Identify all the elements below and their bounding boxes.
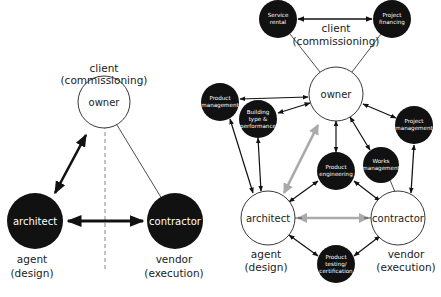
- left-client-label: client: [90, 62, 119, 74]
- building-type-label-2: type &: [249, 116, 268, 123]
- left-commissioning-label: (commissioning): [61, 74, 148, 86]
- left-diagram: client (commissioning) owner architect c…: [7, 62, 204, 279]
- product-testing-label-2: testing/: [325, 261, 346, 268]
- product-engineering-label-1: Product: [325, 164, 347, 170]
- building-architect-arrow: [258, 138, 261, 191]
- product-management-label-2: management: [201, 102, 239, 109]
- product-management-label-1: Product: [209, 95, 231, 101]
- building-owner-arrow: [278, 103, 310, 113]
- product-testing-label-1: Product: [325, 254, 347, 260]
- product-engineering-label-2: engineering: [319, 171, 353, 178]
- prodeng-contractor-arrow: [354, 181, 380, 201]
- architect-prodeng-arrow: [289, 181, 318, 202]
- owner-contractor-line: [117, 125, 162, 199]
- works-contractor-line: [390, 180, 395, 192]
- right-design-caption: (design): [244, 261, 287, 273]
- right-diagram: client (commissioning) owner architect c…: [201, 0, 436, 283]
- left-contractor-label: contractor: [149, 216, 202, 227]
- project-management-label-1: Project: [404, 118, 424, 125]
- svg-text:client: client: [90, 62, 119, 74]
- diagram-canvas: client (commissioning) owner architect c…: [0, 0, 441, 297]
- project-management-label-2: management: [395, 125, 433, 132]
- right-architect-label: architect: [246, 213, 290, 224]
- right-contractor-label: contractor: [372, 213, 425, 224]
- building-type-label-1: Building: [247, 109, 270, 116]
- works-management-label-1: Works: [372, 158, 389, 164]
- left-execution-caption: (execution): [144, 267, 203, 279]
- service-rental-label-1: Service: [268, 12, 289, 18]
- right-owner-label: owner: [321, 89, 353, 100]
- right-execution-caption: (execution): [376, 261, 435, 273]
- left-owner-label: owner: [89, 97, 121, 108]
- left-architect-label: architect: [13, 216, 57, 227]
- projmgmt-contractor-arrow: [411, 145, 414, 193]
- project-financing-label-2: financing: [379, 19, 405, 26]
- left-design-caption: (design): [10, 267, 53, 279]
- right-commissioning-label: (commissioning): [293, 35, 380, 47]
- architect-owner-gray-arrow: [284, 125, 318, 193]
- prodmgmt-owner-arrow: [240, 97, 308, 99]
- building-type-label-3: performance: [240, 123, 276, 130]
- owner-architect-arrow: [55, 135, 86, 193]
- architect-testing-arrow: [289, 235, 318, 256]
- left-vendor-caption: vendor: [156, 253, 193, 265]
- owner-works-arrow: [350, 117, 370, 150]
- testing-contractor-arrow: [354, 236, 380, 256]
- svg-text:(commissioning): (commissioning): [61, 74, 148, 86]
- left-agent-caption: agent: [17, 253, 47, 265]
- right-vendor-caption: vendor: [388, 248, 425, 260]
- right-agent-caption: agent: [251, 248, 281, 260]
- product-testing-label-3: certification: [319, 268, 353, 274]
- owner-projmgmt-arrow: [363, 104, 396, 118]
- service-rental-label-2: rental: [270, 19, 287, 25]
- right-client-label: client: [322, 22, 351, 34]
- works-management-label-2: management: [362, 165, 400, 172]
- project-financing-label-1: Project: [382, 12, 402, 19]
